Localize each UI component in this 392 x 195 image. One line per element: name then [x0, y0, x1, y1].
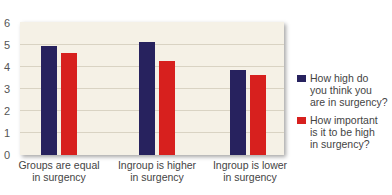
x-label-line: in surgency	[190, 171, 310, 183]
legend-text: you think you	[310, 84, 392, 96]
legend-text: is it to be high	[310, 126, 392, 138]
y-tick-5: 5	[4, 39, 16, 51]
y-tick-6: 6	[4, 17, 16, 29]
legend-item-how-high: How high do you think you are in surgenc…	[297, 72, 392, 108]
y-tick-3: 3	[4, 83, 16, 95]
bar-higher-important	[159, 61, 175, 155]
bar-lower-important	[250, 75, 266, 155]
x-label-line: Ingroup is lower	[190, 159, 310, 171]
plot-area	[20, 22, 284, 155]
y-tick-1: 1	[4, 127, 16, 139]
legend-text: How high do	[310, 72, 392, 84]
legend-text: How important	[310, 114, 392, 126]
legend-text: in surgency?	[310, 138, 392, 150]
y-tick-4: 4	[4, 61, 16, 73]
bar-equal-high	[41, 46, 57, 155]
legend-swatch-red-icon	[297, 117, 306, 124]
bar-higher-high	[139, 42, 155, 155]
legend-text: are in surgency?	[310, 96, 392, 108]
y-tick-2: 2	[4, 105, 16, 117]
legend-swatch-navy-icon	[297, 75, 306, 82]
legend-item-how-important: How important is it to be high in surgen…	[297, 114, 392, 150]
x-label-lower: Ingroup is lower in surgency	[190, 159, 310, 183]
bar-lower-high	[230, 70, 246, 155]
legend: How high do you think you are in surgenc…	[297, 72, 392, 156]
bar-equal-important	[61, 53, 77, 155]
